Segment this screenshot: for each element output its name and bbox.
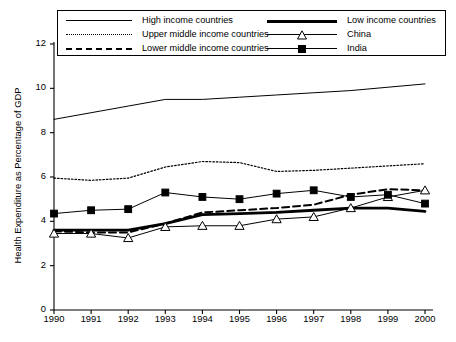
series-layer — [49, 84, 429, 242]
y-axis-tick-label: 4 — [24, 214, 46, 225]
x-axis-tick-label: 1992 — [108, 313, 148, 324]
x-axis-tick-label: 2000 — [405, 313, 445, 324]
y-axis-tick-label: 10 — [24, 81, 46, 92]
x-axis-tick-label: 1994 — [182, 313, 222, 324]
y-axis-tick-label: 2 — [24, 259, 46, 270]
y-axis-tick-label: 6 — [24, 170, 46, 181]
x-axis-tick-label: 1991 — [71, 313, 111, 324]
x-axis-tick-label: 1993 — [145, 313, 185, 324]
axes — [50, 42, 433, 314]
x-axis-tick-label: 1995 — [220, 313, 260, 324]
x-axis-tick-label: 1998 — [331, 313, 371, 324]
plot-area — [0, 0, 456, 342]
x-axis-tick-label: 1999 — [368, 313, 408, 324]
y-axis-tick-label: 12 — [24, 37, 46, 48]
x-axis-tick-label: 1996 — [257, 313, 297, 324]
series-upper-middle-income-countries — [54, 161, 425, 180]
x-axis-tick-label: 1997 — [294, 313, 334, 324]
y-axis-tick-label: 8 — [24, 126, 46, 137]
x-axis-tick-label: 1990 — [34, 313, 74, 324]
chart-root: High income countries Low income countri… — [0, 0, 456, 342]
series-high-income-countries — [54, 84, 425, 119]
